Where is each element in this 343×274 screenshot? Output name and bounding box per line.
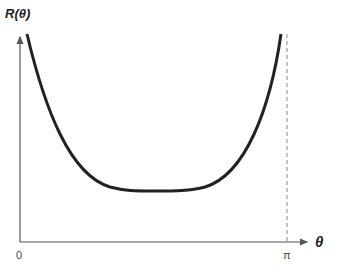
y-axis-label: R(θ)	[5, 6, 30, 21]
x-axis-label: θ	[315, 233, 323, 250]
r-theta-curve	[27, 34, 281, 191]
x-tick-pi: π	[283, 249, 291, 261]
chart-canvas	[0, 0, 343, 274]
x-tick-zero: 0	[16, 249, 22, 261]
